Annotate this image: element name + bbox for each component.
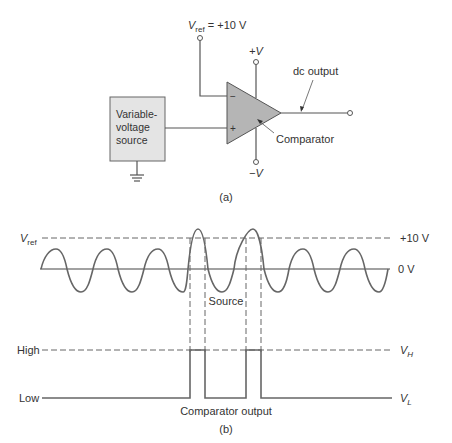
comparator-diagram: Vref = +10 V +V −V − + dc output Compara… xyxy=(0,0,452,443)
plus-input-label: + xyxy=(230,123,236,134)
waveform-b: Vref +10 V 0 V Source High VH Low VL Com… xyxy=(17,229,430,435)
vl-label: VL xyxy=(400,392,412,407)
vref-terminal-label: Vref = +10 V xyxy=(188,19,247,34)
vref-wire xyxy=(200,41,227,97)
plus-v-terminal-icon xyxy=(254,60,259,65)
vh-label: VH xyxy=(400,344,413,359)
dc-output-label: dc output xyxy=(293,65,338,77)
low-label: Low xyxy=(19,392,39,404)
comparator-label: Comparator xyxy=(276,133,334,145)
minus-v-label: −V xyxy=(249,167,264,179)
caption-b: (b) xyxy=(219,423,232,435)
minus-v-terminal-icon xyxy=(254,160,259,165)
dc-output-arrow-icon xyxy=(302,80,313,110)
circuit-a: Vref = +10 V +V −V − + dc output Compara… xyxy=(110,19,353,203)
high-label: High xyxy=(17,344,40,356)
plus10v-label: +10 V xyxy=(400,232,430,244)
comparator-arrow-icon xyxy=(259,121,274,133)
ground-icon xyxy=(130,161,144,181)
plus-v-label: +V xyxy=(249,45,264,57)
zero-v-label: 0 V xyxy=(398,263,415,275)
vref-terminal-icon xyxy=(198,36,203,41)
minus-input-label: − xyxy=(230,91,236,102)
caption-a: (a) xyxy=(219,191,232,203)
source-label: Source xyxy=(209,295,244,307)
output-terminal-icon xyxy=(348,111,353,116)
comparator-output-label: Comparator output xyxy=(180,405,272,417)
vref-level-label: Vref xyxy=(20,232,37,247)
dc-output-arrowhead-icon xyxy=(300,106,304,112)
comparator-output-wave xyxy=(42,350,392,398)
